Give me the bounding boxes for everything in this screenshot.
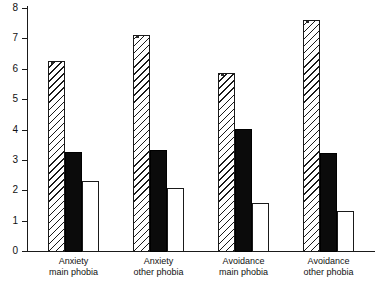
category-label-line1: Anxiety	[34, 256, 114, 267]
y-tick-mark-3	[22, 160, 27, 161]
y-tick-label-0: 0	[4, 246, 18, 256]
y-tick-mark-2	[22, 190, 27, 191]
y-tick-mark-0	[22, 251, 27, 252]
y-tick-label-5: 5	[4, 94, 18, 104]
category-label-line1: Avoidance	[289, 256, 369, 267]
category-label-line2: other phobia	[289, 267, 369, 278]
category-label-4: Avoidanceother phobia	[289, 256, 369, 278]
category-label-line2: main phobia	[204, 267, 284, 278]
bar-black-2	[150, 150, 167, 252]
y-tick-label-4: 4	[4, 125, 18, 135]
category-label-line1: Anxiety	[119, 256, 199, 267]
category-label-2: Anxietyother phobia	[119, 256, 199, 278]
hatch-top-speck	[221, 74, 224, 76]
y-tick-mark-8	[22, 8, 27, 9]
category-label-3: Avoidancemain phobia	[204, 256, 284, 278]
bar-hatched-3	[218, 73, 235, 252]
y-tick-mark-4	[22, 130, 27, 131]
bar-white-2	[167, 188, 184, 252]
hatch-top-speck	[306, 21, 309, 23]
bar-white-1	[82, 181, 99, 252]
y-axis-line	[27, 6, 28, 252]
bar-black-3	[235, 129, 252, 252]
y-tick-label-3: 3	[4, 155, 18, 165]
y-tick-mark-1	[22, 221, 27, 222]
y-tick-label-6: 6	[4, 64, 18, 74]
category-label-1: Anxietymain phobia	[34, 256, 114, 278]
bar-hatched-4	[303, 20, 320, 252]
category-label-line1: Avoidance	[204, 256, 284, 267]
bar-black-1	[65, 152, 82, 252]
y-tick-label-1: 1	[4, 216, 18, 226]
y-tick-mark-5	[22, 99, 27, 100]
category-label-line2: other phobia	[119, 267, 199, 278]
y-tick-label-8: 8	[4, 3, 18, 13]
y-tick-label-7: 7	[4, 33, 18, 43]
y-tick-mark-6	[22, 69, 27, 70]
bar-white-4	[337, 211, 354, 252]
bar-hatched-1	[48, 61, 65, 252]
bar-chart: 012345678 Anxietymain phobiaAnxietyother…	[0, 0, 381, 300]
y-tick-mark-7	[22, 38, 27, 39]
y-tick-label-2: 2	[4, 185, 18, 195]
hatch-top-speck	[136, 36, 139, 38]
hatch-top-speck	[51, 62, 54, 64]
bar-white-3	[252, 203, 269, 252]
bar-black-4	[320, 153, 337, 252]
bar-hatched-2	[133, 35, 150, 252]
category-label-line2: main phobia	[34, 267, 114, 278]
